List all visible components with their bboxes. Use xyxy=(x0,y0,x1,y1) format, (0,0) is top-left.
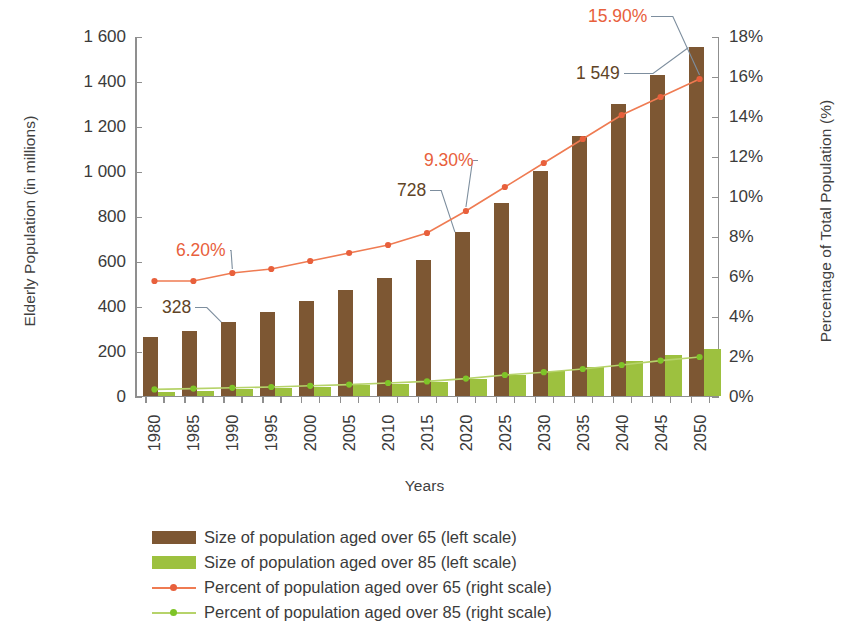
tick-mark xyxy=(340,397,341,403)
tick-mark xyxy=(709,397,710,403)
annotation-percent: 9.30% xyxy=(424,150,474,171)
y-axis-right-title: Percentage of Total Population (%) xyxy=(817,71,835,371)
y-axis-left-ticks: 02004006008001 0001 2001 4001 600 xyxy=(36,0,126,628)
y-axis-left-tick-label: 1 600 xyxy=(40,27,126,47)
markers-over65 xyxy=(151,76,702,284)
tick-mark xyxy=(379,397,380,403)
chart-legend: Size of population aged over 65 (left sc… xyxy=(152,525,752,625)
tick-mark xyxy=(145,397,146,403)
y-axis-left-tick-label: 1 000 xyxy=(40,162,126,182)
y-axis-left-tick-label: 200 xyxy=(40,342,126,362)
y-axis-right-tick-label: 0% xyxy=(729,387,789,407)
annotation-value: 328 xyxy=(162,297,191,318)
y-axis-right-tick-label: 18% xyxy=(729,27,789,47)
data-point-marker xyxy=(619,362,625,368)
data-point-marker xyxy=(307,258,313,264)
y-axis-right-tick-label: 8% xyxy=(729,227,789,247)
tick-mark xyxy=(496,397,497,403)
legend-item[interactable]: Size of population aged over 85 (left sc… xyxy=(152,550,752,575)
legend-item-label: Size of population aged over 85 (left sc… xyxy=(204,553,517,572)
tick-mark xyxy=(163,397,164,403)
data-point-marker xyxy=(190,278,196,284)
data-point-marker xyxy=(268,266,274,272)
data-point-marker xyxy=(541,160,547,166)
annotation-leader-line xyxy=(651,17,700,76)
legend-item-label: Percent of population aged over 85 (righ… xyxy=(204,603,552,622)
tick-mark xyxy=(280,397,281,403)
x-axis-ticks: 1980198519901995200020052010201520202025… xyxy=(135,403,719,467)
tick-mark xyxy=(301,397,302,403)
annotation-value: 728 xyxy=(397,180,426,201)
y-axis-left-tick-label: 600 xyxy=(40,252,126,272)
legend-swatch-icon xyxy=(152,556,196,569)
x-axis-tick-label: 2050 xyxy=(668,403,732,467)
data-point-marker xyxy=(346,250,352,256)
tick-mark xyxy=(475,397,476,403)
tick-mark xyxy=(613,397,614,403)
data-point-marker xyxy=(229,385,235,391)
tick-mark xyxy=(553,397,554,403)
data-point-marker xyxy=(463,376,469,382)
data-point-marker xyxy=(658,358,664,364)
data-point-marker xyxy=(151,278,157,284)
tick-mark xyxy=(397,397,398,403)
tick-mark xyxy=(262,397,263,403)
chart-figure: Elderly Population (in millions) Percent… xyxy=(0,0,849,628)
data-point-marker xyxy=(385,242,391,248)
annotation-leader-line xyxy=(624,47,689,73)
tick-mark xyxy=(670,397,671,403)
tick-mark xyxy=(592,397,593,403)
x-axis-title: Years xyxy=(0,477,849,495)
legend-item[interactable]: Percent of population aged over 65 (righ… xyxy=(152,575,752,600)
legend-item[interactable]: Percent of population aged over 85 (righ… xyxy=(152,600,752,625)
data-point-marker xyxy=(346,382,352,388)
data-point-marker xyxy=(190,386,196,392)
y-axis-left-tick-label: 0 xyxy=(40,387,126,407)
annotation-percent: 15.90% xyxy=(588,6,647,27)
data-point-marker xyxy=(151,386,157,392)
tick-mark xyxy=(358,397,359,403)
y-axis-right-tick-label: 16% xyxy=(729,67,789,87)
data-point-marker xyxy=(463,208,469,214)
annotation-leader-line xyxy=(430,191,455,233)
markers-over85 xyxy=(151,354,702,393)
y-axis-right-tick-label: 4% xyxy=(729,307,789,327)
tick-mark xyxy=(457,397,458,403)
annotation-leader-line xyxy=(230,251,232,270)
y-axis-right-tick-label: 6% xyxy=(729,267,789,287)
y-axis-left-tick-label: 400 xyxy=(40,297,126,317)
line-series-overlay xyxy=(135,37,719,397)
data-point-marker xyxy=(307,383,313,389)
data-point-marker xyxy=(385,380,391,386)
tick-mark xyxy=(691,397,692,403)
y-axis-right-tick-label: 10% xyxy=(729,187,789,207)
legend-line-icon xyxy=(152,581,196,595)
y-axis-right-tick-label: 14% xyxy=(729,107,789,127)
plot-area xyxy=(135,37,719,397)
tick-mark xyxy=(223,397,224,403)
annotation-value: 1 549 xyxy=(576,63,620,84)
data-point-marker xyxy=(229,270,235,276)
legend-item[interactable]: Size of population aged over 65 (left sc… xyxy=(152,525,752,550)
y-axis-left-tick-label: 1 200 xyxy=(40,117,126,137)
tick-mark xyxy=(574,397,575,403)
data-point-marker xyxy=(541,369,547,375)
tick-mark xyxy=(184,397,185,403)
data-point-marker xyxy=(424,230,430,236)
tick-mark xyxy=(535,397,536,403)
tick-mark xyxy=(241,397,242,403)
data-point-marker xyxy=(424,378,430,384)
tick-mark xyxy=(631,397,632,403)
tick-mark xyxy=(712,397,719,398)
data-point-marker xyxy=(580,366,586,372)
data-point-marker xyxy=(502,372,508,378)
tick-mark xyxy=(436,397,437,403)
line-over85 xyxy=(154,357,699,389)
data-point-marker xyxy=(696,354,702,360)
annotation-percent: 6.20% xyxy=(176,240,226,261)
data-point-marker xyxy=(696,76,702,82)
data-point-marker xyxy=(619,112,625,118)
tick-mark xyxy=(202,397,203,403)
annotation-leader-line xyxy=(195,308,221,323)
legend-item-label: Size of population aged over 65 (left sc… xyxy=(204,528,517,547)
